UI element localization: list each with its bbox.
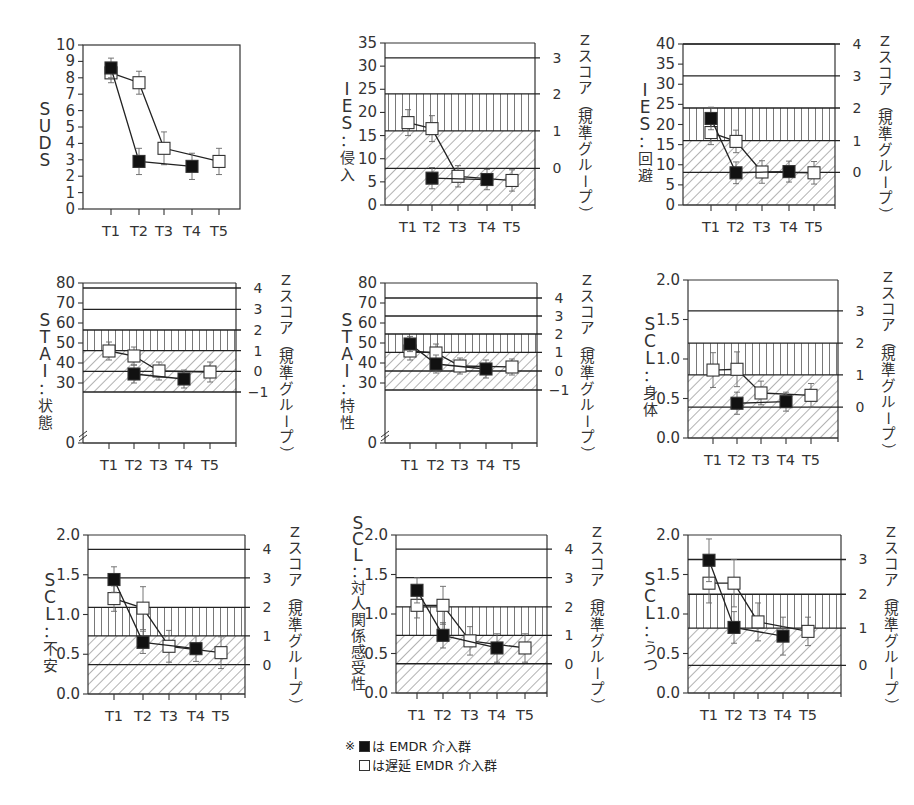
svg-text:準: 準 bbox=[578, 125, 592, 141]
filled-square-marker bbox=[426, 172, 438, 184]
x-tick-label: T4 bbox=[186, 708, 205, 724]
zscore-tick-label: 1 bbox=[853, 133, 862, 149]
zscore-tick-label: 2 bbox=[859, 586, 868, 602]
y-tick-label: 70 bbox=[56, 294, 75, 312]
svg-text:態: 態 bbox=[38, 414, 53, 432]
y-tick-label: 60 bbox=[56, 314, 75, 332]
x-tick-label: T5 bbox=[211, 708, 230, 724]
y-tick-label: 2 bbox=[65, 167, 75, 185]
zscore-axis-title: Zスコア（規準グループ） bbox=[278, 272, 294, 460]
svg-text:ー: ー bbox=[577, 174, 593, 188]
y-tick-label: 0.5 bbox=[364, 645, 388, 663]
x-tick-label: T3 bbox=[751, 452, 770, 468]
zscore-tick-label: 0 bbox=[555, 363, 564, 379]
svg-text:コ: コ bbox=[878, 65, 892, 81]
filled-square-marker bbox=[128, 368, 140, 380]
filled-square-marker bbox=[480, 363, 492, 375]
filled-square-marker bbox=[705, 112, 717, 124]
zscore-tick-label: 2 bbox=[565, 599, 574, 615]
svg-text:）: ） bbox=[287, 698, 303, 712]
filled-square-marker bbox=[703, 554, 715, 566]
svg-text:特: 特 bbox=[340, 397, 355, 415]
svg-text:コ: コ bbox=[288, 556, 302, 572]
y-tick-label: 3 bbox=[65, 151, 75, 169]
y-tick-label: 2.0 bbox=[656, 271, 680, 289]
svg-text:ア: ア bbox=[580, 320, 594, 336]
svg-text:）: ） bbox=[877, 207, 893, 221]
open-square-icon bbox=[359, 760, 370, 771]
svg-text:）: ） bbox=[883, 698, 899, 712]
svg-text:：: ： bbox=[340, 380, 355, 398]
svg-text:L: L bbox=[45, 604, 55, 624]
y-tick-label: 1.0 bbox=[656, 605, 680, 623]
svg-text:I: I bbox=[344, 361, 349, 381]
svg-text:Z: Z bbox=[880, 33, 890, 49]
svg-text:L: L bbox=[353, 545, 363, 565]
svg-text:ス: ス bbox=[578, 48, 592, 64]
zscore-tick-label: 0 bbox=[263, 657, 272, 673]
zscore-tick-label: 0 bbox=[565, 656, 574, 672]
svg-text:ス: ス bbox=[580, 288, 594, 304]
zscore-tick-label: 0 bbox=[853, 164, 862, 180]
y-tick-label: 7 bbox=[65, 85, 75, 103]
y-axis-title: SCL：対人関係感受性 bbox=[351, 513, 366, 693]
y-tick-label: 15 bbox=[358, 127, 377, 145]
y-tick-label: 20 bbox=[358, 103, 377, 121]
zscore-tick-label: 1 bbox=[263, 628, 272, 644]
x-tick-label: T1 bbox=[104, 708, 123, 724]
figure-canvas: 012345678910SUDST1T2T3T4T50123Zスコア（規準グルー… bbox=[0, 0, 914, 805]
x-tick-label: T2 bbox=[124, 457, 143, 473]
filled-square-marker bbox=[133, 155, 145, 167]
svg-text:ー: ー bbox=[880, 411, 896, 425]
zscore-tick-label: 2 bbox=[856, 335, 865, 351]
open-square-marker bbox=[204, 366, 216, 378]
y-tick-label: 1.5 bbox=[656, 566, 680, 584]
svg-text:ア: ア bbox=[288, 572, 302, 588]
filled-square-marker bbox=[137, 636, 149, 648]
svg-text:ア: ア bbox=[578, 80, 592, 96]
chart-panel-suds: 012345678910SUDST1T2T3T4T5 bbox=[38, 36, 240, 239]
zscore-tick-label: 2 bbox=[254, 322, 263, 338]
svg-text:ア: ア bbox=[884, 572, 898, 588]
x-tick-label: T5 bbox=[804, 219, 823, 235]
svg-text:I: I bbox=[42, 361, 47, 381]
chart-panel-ies-avoidance: 01234Zスコア（規準グループ）0510152025303540IES：回避T… bbox=[638, 33, 894, 235]
open-square-marker bbox=[731, 363, 743, 375]
svg-text:コ: コ bbox=[590, 556, 604, 572]
filled-square-marker bbox=[190, 643, 202, 655]
y-tick-label: 1 bbox=[65, 184, 75, 202]
open-square-marker bbox=[426, 123, 438, 135]
svg-text:プ: プ bbox=[279, 429, 294, 445]
x-tick-label: T1 bbox=[703, 452, 722, 468]
svg-text:）: ） bbox=[579, 446, 595, 460]
y-tick-label: 10 bbox=[358, 150, 377, 168]
svg-text:S: S bbox=[40, 150, 51, 170]
y-tick-label: 15 bbox=[656, 136, 675, 154]
filled-square-marker bbox=[783, 166, 795, 178]
svg-text:ア: ア bbox=[279, 320, 293, 336]
svg-text:規: 規 bbox=[578, 109, 593, 125]
open-square-marker bbox=[730, 135, 742, 147]
svg-text:：: ： bbox=[38, 380, 53, 398]
y-tick-label: 80 bbox=[358, 274, 377, 292]
filled-square-marker bbox=[730, 167, 742, 179]
legend-label-emdr: は EMDR 介入群 bbox=[372, 737, 471, 756]
svg-text:Z: Z bbox=[883, 269, 893, 285]
zscore-tick-label: 0 bbox=[856, 399, 865, 415]
y-tick-label: 80 bbox=[56, 274, 75, 292]
chart-panel-stai-state: −101234Zスコア（規準グループ）0304050607080STAI：状態T… bbox=[38, 272, 295, 473]
svg-text:ル: ル bbox=[580, 397, 594, 413]
svg-text:Z: Z bbox=[580, 32, 590, 48]
svg-text:ー: ー bbox=[589, 666, 605, 680]
open-square-marker bbox=[808, 167, 820, 179]
band-diagonal-hatch bbox=[688, 375, 838, 438]
y-tick-label: 70 bbox=[358, 294, 377, 312]
svg-text:避: 避 bbox=[638, 167, 653, 185]
svg-text:規: 規 bbox=[279, 349, 294, 365]
x-tick-label: T3 bbox=[149, 457, 168, 473]
x-tick-label: T3 bbox=[460, 707, 479, 723]
note-mark: ※ bbox=[345, 737, 359, 756]
zscore-tick-label: 3 bbox=[856, 303, 865, 319]
filled-square-marker bbox=[178, 373, 190, 385]
svg-text:侵: 侵 bbox=[340, 149, 355, 167]
